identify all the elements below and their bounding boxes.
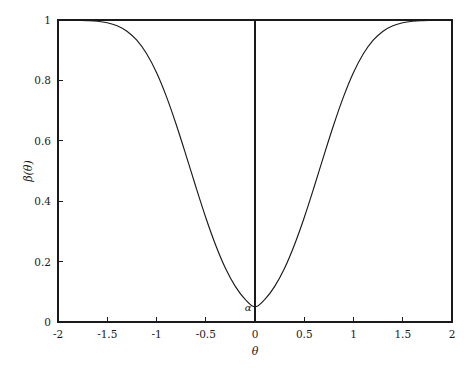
y-tick-label: 0.2 [34,256,51,268]
y-axis-title: β(θ) [22,160,35,183]
y-tick-label: 0.4 [34,195,51,207]
x-tick-label: -1 [151,328,161,340]
alpha-annotation: α [245,302,252,313]
x-axis-tick-labels: -2-1.5-1-0.500.511.52 [53,328,455,340]
y-tick-label: 1 [44,14,51,26]
x-axis-title: θ [252,345,259,358]
y-tick-label: 0.8 [34,74,51,86]
x-tick-label: 0.5 [296,328,313,340]
x-tick-label: 0 [252,328,259,340]
y-axis-ticks [58,20,63,322]
y-tick-label: 0 [44,316,51,328]
x-tick-label: 1.5 [394,328,411,340]
x-tick-label: -1.5 [97,328,117,340]
x-tick-label: -2 [53,328,63,340]
x-tick-label: -0.5 [196,328,216,340]
power-function-chart: -2-1.5-1-0.500.511.52 00.20.40.60.81 θ β… [0,0,475,375]
chart-canvas: -2-1.5-1-0.500.511.52 00.20.40.60.81 θ β… [0,0,475,375]
y-axis-tick-labels: 00.20.40.60.81 [34,14,51,328]
y-tick-label: 0.6 [34,135,51,147]
alpha-label: α [245,302,252,313]
x-tick-label: 2 [449,328,456,340]
x-tick-label: 1 [350,328,357,340]
